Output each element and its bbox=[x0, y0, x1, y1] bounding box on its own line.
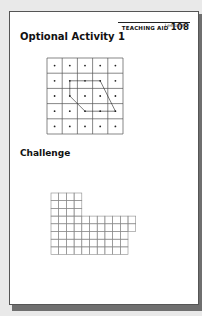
teaching-aid-label: TEACHING AID bbox=[122, 25, 169, 31]
square-grid-figure bbox=[51, 193, 141, 257]
section-title-optional-activity: Optional Activity 1 bbox=[20, 31, 125, 42]
lesson-label: Lesson 8-3 bbox=[165, 23, 189, 28]
section-title-challenge: Challenge bbox=[20, 148, 70, 158]
worksheet-page: TEACHING AID 108 Lesson 8-3 Optional Act… bbox=[9, 11, 199, 305]
dot-grid-figure bbox=[47, 58, 124, 135]
